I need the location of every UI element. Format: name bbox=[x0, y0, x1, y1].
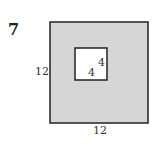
square-diagram bbox=[0, 0, 159, 149]
outer-side-label-bottom: 12 bbox=[93, 124, 107, 137]
outer-side-label-left: 12 bbox=[35, 65, 49, 78]
inner-side-label-bottom: 4 bbox=[88, 66, 95, 79]
inner-side-label-right: 4 bbox=[98, 56, 105, 69]
